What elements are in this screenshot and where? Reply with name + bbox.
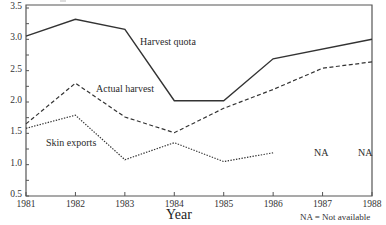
series-line-actual-harvest [26, 62, 372, 133]
y-tick-label: 1.5 [0, 126, 22, 136]
y-tick-label: 3.5 [0, 1, 22, 11]
chart-axes [26, 1, 372, 196]
y-tick-label: 0.5 [0, 189, 22, 199]
series-line-harvest-quota [26, 19, 372, 100]
x-tick-label: 1985 [209, 199, 239, 209]
na-annotation-1987: NA [314, 147, 328, 158]
na-annotation-1988: NA [358, 147, 372, 158]
series-label-skin-exports: Skin exports [46, 137, 96, 148]
x-tick-label: 1987 [308, 199, 338, 209]
x-tick-label: 1981 [11, 199, 41, 209]
series-label-harvest-quota: Harvest quota [140, 36, 196, 47]
y-tick-label: 3.0 [0, 32, 22, 42]
x-axis-title: Year [166, 207, 192, 223]
y-tick-label: 2.0 [0, 95, 22, 105]
x-tick-label: 1982 [60, 199, 90, 209]
y-tick-label: 2.5 [0, 64, 22, 74]
x-tick-label: 1986 [258, 199, 288, 209]
x-tick-label: 1983 [110, 199, 140, 209]
footnote: NA = Not available [300, 212, 370, 222]
y-tick-label: 1.0 [0, 158, 22, 168]
series-label-actual-harvest: Actual harvest [96, 83, 154, 94]
x-tick-label: 1988 [357, 199, 386, 209]
